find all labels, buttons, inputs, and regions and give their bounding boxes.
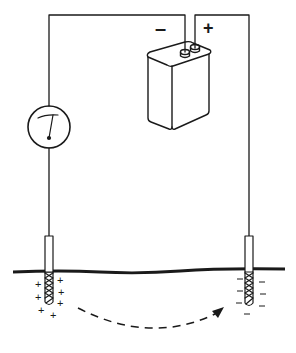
positive-label: + [203,18,214,38]
svg-text:+: + [35,291,41,303]
battery [147,42,210,130]
circuit-diagram: – + + + + + + + + [0,0,296,353]
svg-text:+: + [35,278,41,290]
meter-dial-icon [28,106,70,148]
negative-label: – [155,17,166,39]
wires [49,15,249,236]
svg-text:+: + [57,274,63,286]
svg-text:+: + [50,309,56,321]
right-wire [195,15,249,236]
right-electrode [245,236,253,306]
svg-text:+: + [38,304,44,316]
svg-text:+: + [57,297,63,309]
current-flow-arrow [78,307,224,328]
left-electrode [45,236,53,305]
ground-surface [13,269,285,273]
